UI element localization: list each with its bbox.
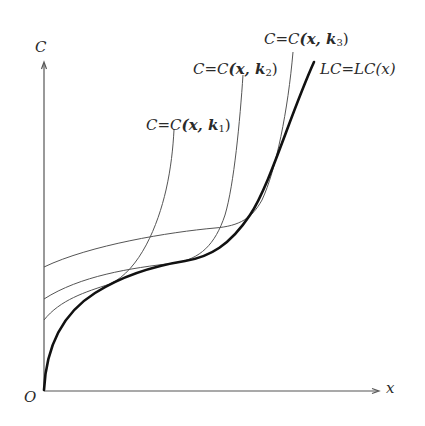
curve-label-lc: LC=LC(x) (320, 62, 396, 77)
x-axis-label: x (386, 381, 394, 396)
curve-label-k2-args: (x, k (229, 60, 266, 78)
curve-label-k2-close: ) (272, 60, 278, 78)
y-axis-label: C (35, 40, 46, 55)
axes (42, 62, 380, 394)
short-run-curve-k2 (44, 75, 243, 299)
long-run-cost-curve (44, 62, 314, 390)
curve-label-k1-prefix: C=C (146, 116, 182, 134)
curve-label-k3-args: (x, k (300, 30, 337, 48)
curve-label-k1: C=C(x, k1) (146, 118, 231, 134)
curve-label-k3-prefix: C=C (264, 30, 300, 48)
short-run-curve-k1 (44, 130, 174, 320)
curve-label-k1-close: ) (225, 116, 231, 134)
curve-label-k1-args: (x, k (182, 116, 219, 134)
origin-label: O (24, 390, 36, 405)
short-run-curve-k3 (44, 52, 293, 267)
curve-label-k3: C=C(x, k3) (264, 32, 349, 48)
curve-label-k2-prefix: C=C (193, 60, 229, 78)
curve-label-k3-close: ) (343, 30, 349, 48)
curve-label-k2: C=C(x, k2) (193, 62, 278, 78)
